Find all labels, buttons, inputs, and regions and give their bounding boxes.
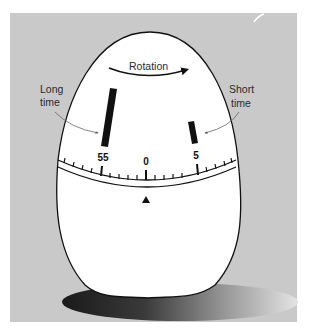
dial-label-0: 0	[143, 156, 149, 167]
dial-label-55: 55	[97, 152, 109, 163]
rotation-label: Rotation	[129, 60, 168, 72]
short-time-label-line2: time	[231, 97, 251, 109]
dial-label-5: 5	[193, 150, 199, 161]
egg-timer-figure: 55 0 5 Rotation Long time Short time	[0, 0, 311, 335]
long-time-label-line1: Long	[40, 83, 64, 95]
highlight-mark	[254, 14, 264, 22]
short-time-label-line1: Short	[229, 83, 254, 95]
long-time-label-line2: time	[40, 96, 60, 108]
